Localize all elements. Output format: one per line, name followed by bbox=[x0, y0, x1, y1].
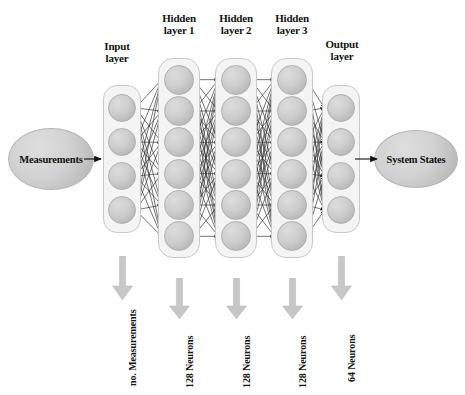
neuron bbox=[277, 159, 307, 189]
down-arrow-icon bbox=[112, 256, 133, 300]
neuron bbox=[221, 159, 251, 189]
neural-network-diagram: Input layer Hidden layer 1 Hidden layer … bbox=[0, 0, 465, 395]
layer-annotation-hidden-layer-1: 128 Neurons bbox=[184, 336, 195, 388]
neuron bbox=[327, 196, 355, 224]
measurements-ellipse: Measurements bbox=[8, 128, 94, 190]
neuron bbox=[327, 128, 355, 156]
neuron bbox=[108, 162, 136, 190]
system-states-label: System States bbox=[387, 154, 446, 165]
neuron bbox=[108, 128, 136, 156]
layer-caption-hidden-2: Hidden layer 2 bbox=[209, 12, 263, 36]
layer-caption-hidden-1: Hidden layer 1 bbox=[152, 12, 206, 36]
neuron bbox=[164, 159, 194, 189]
system-states-ellipse: System States bbox=[374, 130, 458, 188]
layer-annotation-hidden-layer-2: 128 Neurons bbox=[241, 336, 252, 388]
neuron bbox=[277, 127, 307, 157]
layer-caption-output: Output layer bbox=[315, 38, 369, 62]
neuron bbox=[327, 94, 355, 122]
neuron bbox=[277, 96, 307, 126]
neuron bbox=[164, 190, 194, 220]
down-arrow-icon bbox=[331, 256, 352, 300]
down-arrow-icon bbox=[282, 278, 303, 319]
layer-annotation-input-layer: no. Measurements bbox=[127, 309, 138, 386]
down-arrow-icon bbox=[226, 278, 247, 319]
neuron bbox=[277, 190, 307, 220]
neuron bbox=[277, 65, 307, 95]
neuron bbox=[221, 221, 251, 251]
measurements-label: Measurements bbox=[19, 154, 82, 165]
neuron bbox=[221, 65, 251, 95]
neuron bbox=[164, 65, 194, 95]
neuron bbox=[164, 96, 194, 126]
layer-caption-hidden-3: Hidden layer 3 bbox=[265, 12, 319, 36]
layer-annotation-hidden-layer-3: 128 Neurons bbox=[297, 336, 308, 388]
layer-caption-input: Input layer bbox=[92, 40, 142, 64]
neuron bbox=[221, 190, 251, 220]
neuron bbox=[164, 127, 194, 157]
layer-annotation-output-layer: 64 Neurons bbox=[346, 335, 357, 382]
neuron bbox=[221, 127, 251, 157]
neuron bbox=[277, 221, 307, 251]
neuron bbox=[221, 96, 251, 126]
down-arrow-icon bbox=[169, 278, 190, 319]
neuron bbox=[108, 196, 136, 224]
neuron bbox=[108, 94, 136, 122]
neuron bbox=[327, 162, 355, 190]
neuron bbox=[164, 221, 194, 251]
